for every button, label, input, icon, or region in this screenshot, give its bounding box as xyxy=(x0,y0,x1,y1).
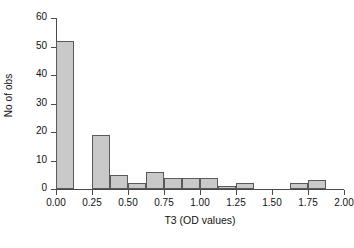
histogram-bar xyxy=(308,180,326,189)
plot-area: 0102030405060 0.000.250.500.751.001.251.… xyxy=(56,18,344,190)
histogram-bar xyxy=(146,172,164,189)
histogram-bar xyxy=(56,41,74,189)
y-tick: 40 xyxy=(51,75,56,76)
x-tick-label: 2.00 xyxy=(334,197,353,208)
y-tick: 10 xyxy=(51,161,56,162)
histogram-bar xyxy=(200,178,218,189)
x-tick-label: 1.75 xyxy=(298,197,317,208)
histogram-bar xyxy=(182,178,200,189)
x-tick-label: 0.25 xyxy=(82,197,101,208)
histogram-bar xyxy=(110,175,128,189)
y-axis-title-text: No of obs xyxy=(4,73,15,117)
bar-series xyxy=(56,18,344,190)
x-tick xyxy=(272,190,273,195)
x-tick xyxy=(56,190,57,195)
x-axis-title: T3 (OD values) xyxy=(56,214,344,226)
histogram-bar xyxy=(236,183,254,189)
x-tick-label: 0.75 xyxy=(154,197,173,208)
histogram-bar xyxy=(218,186,236,189)
x-tick xyxy=(344,190,345,195)
y-axis-title: No of obs xyxy=(0,0,18,190)
y-tick-label: 40 xyxy=(36,68,47,79)
x-tick-label: 1.25 xyxy=(226,197,245,208)
histogram-bar xyxy=(164,178,182,189)
y-tick-label: 10 xyxy=(36,154,47,165)
y-tick: 50 xyxy=(51,47,56,48)
x-tick xyxy=(200,190,201,195)
histogram-bar xyxy=(92,135,110,189)
y-tick: 60 xyxy=(51,18,56,19)
x-axis-title-text: T3 (OD values) xyxy=(164,214,235,226)
y-tick: 30 xyxy=(51,104,56,105)
x-tick-label: 1.50 xyxy=(262,197,281,208)
histogram-bar xyxy=(290,183,308,189)
x-tick xyxy=(92,190,93,195)
y-tick-label: 50 xyxy=(36,40,47,51)
y-tick-label: 30 xyxy=(36,97,47,108)
y-tick-label: 60 xyxy=(36,11,47,22)
y-tick-label: 20 xyxy=(36,125,47,136)
x-tick xyxy=(128,190,129,195)
x-tick-label: 0.00 xyxy=(46,197,65,208)
x-tick xyxy=(308,190,309,195)
y-tick: 20 xyxy=(51,132,56,133)
x-tick-label: 0.50 xyxy=(118,197,137,208)
x-tick xyxy=(164,190,165,195)
histogram-figure: No of obs 0102030405060 0.000.250.500.75… xyxy=(0,0,354,248)
x-tick-label: 1.00 xyxy=(190,197,209,208)
x-tick xyxy=(236,190,237,195)
histogram-bar xyxy=(128,183,146,189)
y-tick-label: 0 xyxy=(41,182,47,193)
